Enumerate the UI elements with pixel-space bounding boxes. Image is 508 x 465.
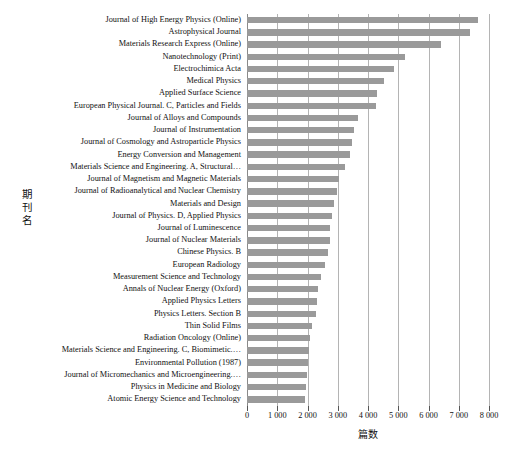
bar [247,384,306,390]
bar-row [247,14,489,26]
x-tick [247,406,248,411]
bar-row [247,210,489,222]
category-label: Atomic Energy Science and Technology [40,393,244,405]
bar-row [247,38,489,50]
bar [247,164,345,170]
bar-row [247,51,489,63]
bar-row [247,357,489,369]
x-tick [308,406,309,411]
bar-row [247,185,489,197]
bar [247,262,325,268]
category-label: European Radiology [40,259,244,271]
x-tick-label: 3 000 [328,411,347,420]
bar-row [247,271,489,283]
bar-row [247,112,489,124]
bar [247,127,354,133]
bar-row [247,87,489,99]
bar-row [247,173,489,185]
bar [247,66,394,72]
bar-row [247,381,489,393]
bar [247,54,405,60]
x-tick-label: 2 000 [298,411,317,420]
bar-row [247,332,489,344]
bar [247,17,478,23]
bar-row [247,26,489,38]
category-label: Materials Research Express (Online) [40,38,244,50]
category-label: Materials Science and Engineering. C, Bi… [40,344,244,356]
bar [247,274,321,280]
category-label: Thin Solid Films [40,320,244,332]
bar [247,249,328,255]
category-label: Journal of Cosmology and Astroparticle P… [40,136,244,148]
bar-row [247,308,489,320]
bar [247,213,332,219]
bar-row [247,295,489,307]
category-label: Nanotechnology (Print) [40,51,244,63]
bar-row [247,320,489,332]
bar [247,237,330,243]
bar [247,115,358,121]
category-label: Journal of Micromechanics and Microengin… [40,369,244,381]
bar [247,78,384,84]
category-label: Journal of Alloys and Compounds [40,112,244,124]
category-label: Journal of Physics. D, Applied Physics [40,210,244,222]
category-label: Physics Letters. Section B [40,308,244,320]
bar [247,311,316,317]
bar-row [247,124,489,136]
bar-row [247,283,489,295]
bar [247,139,352,145]
bar [247,200,334,206]
x-axis-title: 篇数 [247,426,489,441]
bars-group [247,14,489,406]
bar-row [247,136,489,148]
bar [247,335,310,341]
bar-chart: 期 刊 名 Journal of High Energy Physics (On… [0,0,508,465]
category-label: Measurement Science and Technology [40,271,244,283]
y-axis-title-char-1: 期 [18,188,36,201]
category-label: Environmental Pollution (1987) [40,357,244,369]
category-label: Applied Surface Science [40,87,244,99]
category-label: Astrophysical Journal [40,26,244,38]
bar [247,176,339,182]
category-label: Radiation Oncology (Online) [40,332,244,344]
y-axis-title-char-2: 刊 [18,201,36,214]
x-tick [398,406,399,411]
category-label: Journal of Magnetism and Magnetic Materi… [40,173,244,185]
x-tick-label: 4 000 [359,411,378,420]
category-label: Journal of Radioanalytical and Nuclear C… [40,185,244,197]
category-label: Journal of Luminescence [40,222,244,234]
category-label: Electrochimica Acta [40,63,244,75]
bar-row [247,149,489,161]
category-label: Materials Science and Engineering. A, St… [40,161,244,173]
bar [247,323,312,329]
bar-row [247,75,489,87]
x-tick-label: 1 000 [268,411,287,420]
category-label: Medical Physics [40,75,244,87]
bar [247,347,309,353]
bar [247,298,317,304]
category-label: Energy Conversion and Management [40,149,244,161]
bar [247,286,318,292]
plot-area [247,14,489,406]
y-axis-title-char-3: 名 [18,214,36,227]
category-label: Journal of Instrumentation [40,124,244,136]
category-label: Chinese Physics. B [40,246,244,258]
bar-row [247,259,489,271]
x-tick [459,406,460,411]
bar [247,359,308,365]
bar [247,372,307,378]
bar-row [247,234,489,246]
gridline [489,14,490,406]
bar-row [247,369,489,381]
x-axis-tick-labels: 01 0002 0003 0004 0005 0006 0007 0008 00… [247,411,489,423]
x-tick [368,406,369,411]
bar [247,41,441,47]
bar-row [247,222,489,234]
bar [247,151,350,157]
bar [247,29,470,35]
category-axis-labels: Journal of High Energy Physics (Online)A… [40,14,244,406]
x-tick-label: 0 [245,411,249,420]
bar-row [247,344,489,356]
bar [247,90,377,96]
bar-row [247,161,489,173]
